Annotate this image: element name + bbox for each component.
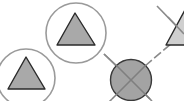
triangle-ring-2 [46,3,106,63]
triangle-ring-1 [0,49,55,101]
cross-line-tail [108,99,112,101]
blocked-node [104,54,152,101]
triangle-icon [57,13,95,45]
connector-line-dashed [145,43,172,66]
diagram-canvas [0,0,184,101]
partial-triangle [166,8,184,45]
triangle-icon [166,8,184,45]
triangle-icon [8,57,45,89]
